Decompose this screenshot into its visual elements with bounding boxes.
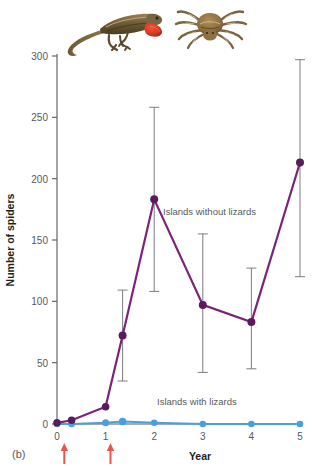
- y-tick-label-100: 100: [31, 296, 48, 307]
- lizard-introduction-arrow-2: [107, 443, 114, 464]
- y-tick-label-50: 50: [37, 358, 49, 369]
- y-axis-title: Number of spiders: [4, 193, 16, 286]
- series-points-without-lizards: [53, 159, 304, 427]
- lizard-introduction-arrow-1: [61, 443, 68, 464]
- panel-label: (b): [12, 448, 25, 460]
- y-tick-label-0: 0: [42, 419, 48, 430]
- error-bars-without-lizards: [118, 60, 305, 381]
- y-tick-label-300: 300: [31, 51, 48, 62]
- y-axis-ticks: [52, 56, 57, 424]
- figure-panel-b: 0 50 100 150 200 250 300 Number of spide…: [0, 0, 312, 470]
- x-tick-label-0: 0: [54, 431, 60, 442]
- x-tick-label-4: 4: [249, 431, 255, 442]
- x-tick-label-2: 2: [151, 431, 157, 442]
- series-line-without-lizards: [57, 163, 300, 423]
- y-tick-label-200: 200: [31, 174, 48, 185]
- y-tick-label-250: 250: [31, 112, 48, 123]
- series-label-without-lizards: Islands without lizards: [163, 206, 256, 217]
- series-label-with-lizards: Islands with lizards: [157, 396, 237, 407]
- x-tick-label-3: 3: [200, 431, 206, 442]
- spider-population-chart: 0 50 100 150 200 250 300 Number of spide…: [0, 0, 312, 470]
- y-tick-label-150: 150: [31, 235, 48, 246]
- x-axis-title: Year: [189, 450, 211, 462]
- x-tick-label-5: 5: [297, 431, 303, 442]
- series-line-with-lizards: [57, 422, 300, 425]
- x-tick-label-1: 1: [103, 431, 109, 442]
